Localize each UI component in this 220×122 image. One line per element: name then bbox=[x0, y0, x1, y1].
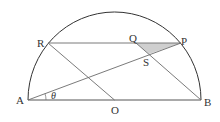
angle-arc-theta bbox=[45, 94, 46, 100]
label-o: O bbox=[111, 104, 119, 116]
label-p: P bbox=[181, 35, 187, 47]
label-s: S bbox=[143, 56, 149, 68]
line-qb bbox=[136, 43, 201, 100]
geometry-figure: A B O R P Q S θ bbox=[0, 0, 220, 122]
label-theta: θ bbox=[51, 90, 56, 101]
label-a: A bbox=[16, 94, 24, 106]
label-q: Q bbox=[129, 32, 137, 44]
label-r: R bbox=[37, 37, 45, 49]
semicircle-arc bbox=[28, 12, 201, 100]
semicircle-diagram: A B O R P Q S θ bbox=[0, 0, 220, 122]
label-b: B bbox=[204, 96, 211, 108]
